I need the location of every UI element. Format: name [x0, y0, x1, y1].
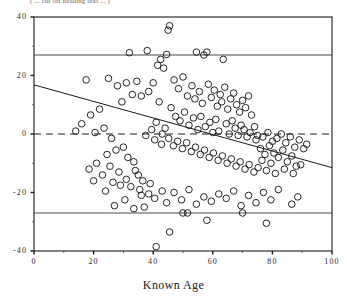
- x-tick-label: 0: [14, 257, 54, 266]
- y-tick-label: 0: [0, 129, 27, 138]
- y-tick-label: 40: [0, 12, 27, 21]
- y-tick-label: -20: [0, 188, 27, 197]
- plot-canvas: [0, 0, 347, 301]
- x-axis-title: Known Age: [0, 278, 347, 293]
- y-tick-label: -40: [0, 246, 27, 255]
- y-tick-label: 20: [0, 71, 27, 80]
- x-tick-label: 100: [312, 257, 347, 266]
- x-tick-label: 20: [74, 257, 114, 266]
- x-tick-label: 80: [252, 257, 292, 266]
- scatter-plot-figure: ( ... cut off heading text ... ) 0204060…: [0, 0, 347, 301]
- x-tick-label: 40: [133, 257, 173, 266]
- x-tick-label: 60: [193, 257, 233, 266]
